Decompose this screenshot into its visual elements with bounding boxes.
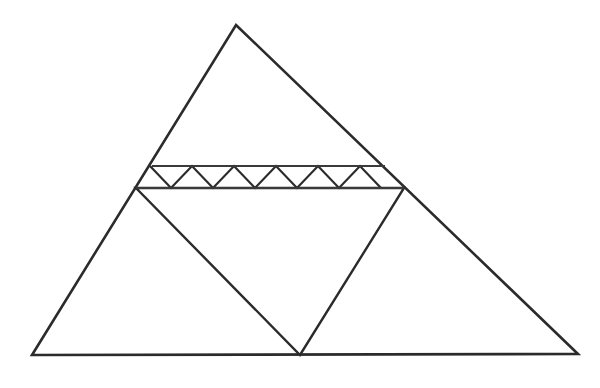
geometry-diagram-svg [0, 0, 600, 388]
figure-container [0, 0, 600, 388]
canvas-background [0, 0, 600, 388]
